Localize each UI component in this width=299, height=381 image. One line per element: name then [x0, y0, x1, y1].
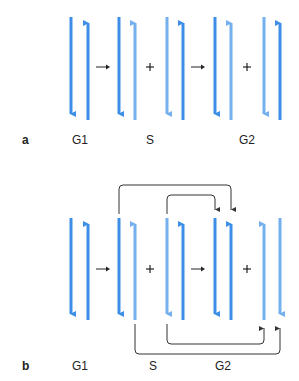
- connector-bottom-outer: [135, 324, 280, 354]
- strand-diagram: [0, 0, 299, 381]
- phase-label-g2: G2: [215, 359, 231, 373]
- connector-top-inner: [167, 195, 215, 214]
- phase-label-s: S: [146, 133, 154, 147]
- phase-label-s: S: [149, 359, 157, 373]
- panel-b-letter: b: [22, 359, 29, 373]
- connector-bottom-inner: [167, 324, 264, 344]
- phase-label-g1: G1: [72, 359, 88, 373]
- connector-top-outer: [119, 185, 231, 214]
- phase-label-g1: G1: [72, 133, 88, 147]
- panel-a-strands: [71, 17, 280, 120]
- phase-label-g2: G2: [239, 133, 255, 147]
- panel-a-letter: a: [22, 133, 29, 147]
